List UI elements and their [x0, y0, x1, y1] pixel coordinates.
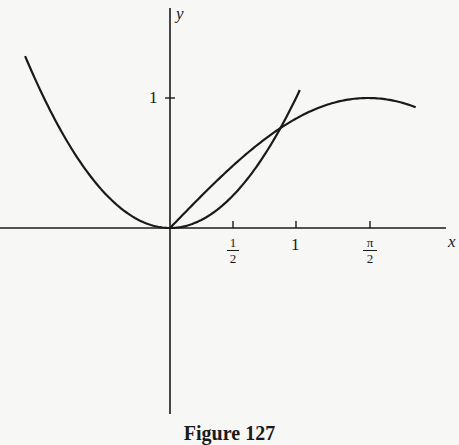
- x-half-num: 1: [230, 235, 237, 250]
- x-half-den: 2: [230, 251, 237, 266]
- figure-caption: Figure 127: [0, 422, 459, 445]
- sine-curve: [170, 98, 416, 228]
- x-tick-label-half: 1 2: [227, 236, 239, 265]
- y-axis-label: y: [176, 4, 184, 24]
- x-tick-label-pi-half: π 2: [363, 236, 377, 265]
- y-tick-label-1: 1: [149, 88, 158, 108]
- x-axis-label: x: [448, 232, 456, 252]
- parabola-curve: [25, 56, 300, 228]
- x-pi-num: π: [367, 235, 374, 250]
- x-tick-label-1: 1: [291, 235, 300, 255]
- x-pi-den: 2: [367, 251, 374, 266]
